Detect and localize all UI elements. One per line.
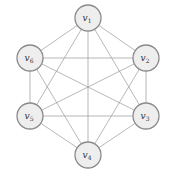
node-v4: v4 bbox=[75, 142, 101, 168]
node-v5: v5 bbox=[17, 103, 43, 129]
node-v3: v3 bbox=[133, 103, 159, 129]
node-v1: v1 bbox=[75, 5, 101, 31]
graph-canvas: v1v2v3v4v5v6 bbox=[0, 0, 172, 175]
edges-layer bbox=[30, 18, 146, 155]
node-v6: v6 bbox=[17, 45, 43, 71]
node-v2: v2 bbox=[133, 45, 159, 71]
